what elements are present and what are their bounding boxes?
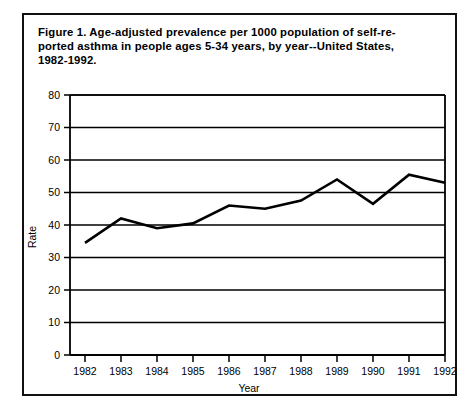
- x-tick-label: 1989: [325, 365, 349, 377]
- y-tick-label: 60: [48, 154, 60, 166]
- asthma-prevalence-line-chart: 01020304050607080 1982198319841985198619…: [24, 15, 459, 398]
- y-tick-label: 10: [48, 316, 60, 328]
- x-tick-label: 1986: [217, 365, 241, 377]
- x-tick-label: 1988: [289, 365, 313, 377]
- x-tick-label: 1984: [145, 365, 169, 377]
- x-axis-tick-labels: 1982198319841985198619871988198919901991…: [73, 365, 457, 377]
- x-tick-label: 1983: [109, 365, 133, 377]
- chart-plot-region: 01020304050607080 1982198319841985198619…: [24, 15, 459, 398]
- y-tick-label: 0: [54, 349, 60, 361]
- x-tick-label: 1990: [361, 365, 385, 377]
- x-tick-label: 1987: [253, 365, 277, 377]
- x-tick-label: 1992: [433, 365, 457, 377]
- y-tick-label: 40: [48, 219, 60, 231]
- y-tick-label: 30: [48, 251, 60, 263]
- figure-frame: Figure 1. Age-adjusted prevalence per 10…: [22, 13, 457, 396]
- x-tick-label: 1991: [397, 365, 421, 377]
- y-tick-label: 80: [48, 89, 60, 101]
- y-axis-title: Rate: [26, 226, 38, 248]
- data-series-line: [85, 175, 445, 243]
- x-tick-label: 1985: [181, 365, 205, 377]
- x-tick-label: 1982: [73, 365, 97, 377]
- x-axis-title: Year: [238, 382, 260, 394]
- x-axis-ticks: [85, 355, 445, 362]
- y-axis-tick-labels: 01020304050607080: [48, 89, 60, 361]
- y-tick-label: 20: [48, 284, 60, 296]
- y-tick-label: 50: [48, 186, 60, 198]
- y-tick-label: 70: [48, 121, 60, 133]
